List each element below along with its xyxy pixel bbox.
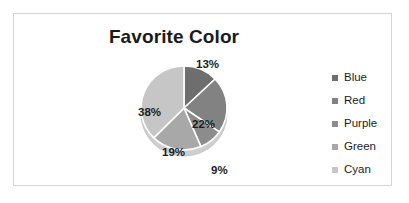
- pie-label-red: 22%: [192, 118, 215, 130]
- chart-title: Favorite Color: [14, 26, 334, 48]
- legend-swatch-icon: [332, 98, 338, 104]
- pie-chart-graphic: [114, 56, 244, 181]
- pie-label-cyan: 38%: [138, 106, 161, 118]
- legend-swatch-icon: [332, 144, 338, 150]
- legend-swatch-icon: [332, 167, 338, 173]
- legend-item-green[interactable]: Green: [332, 135, 407, 158]
- pie-label-blue: 13%: [196, 58, 219, 70]
- legend-item-red[interactable]: Red: [332, 89, 407, 112]
- chart-container: Favorite Color 13%22%9%19%38% BlueRedPur…: [13, 13, 392, 186]
- legend-item-cyan[interactable]: Cyan: [332, 158, 407, 181]
- legend-item-blue[interactable]: Blue: [332, 66, 407, 89]
- legend-item-label: Red: [344, 95, 365, 107]
- legend-swatch-icon: [332, 75, 338, 81]
- legend-swatch-icon: [332, 121, 338, 127]
- legend-item-label: Purple: [344, 118, 377, 130]
- chart-legend: BlueRedPurpleGreenCyan: [332, 66, 407, 181]
- pie-label-green: 19%: [162, 146, 185, 158]
- legend-item-purple[interactable]: Purple: [332, 112, 407, 135]
- legend-item-label: Green: [344, 141, 376, 153]
- pie-label-purple: 9%: [211, 164, 228, 176]
- pie-chart-plot-area: 13%22%9%19%38%: [114, 56, 244, 181]
- legend-item-label: Blue: [344, 72, 367, 84]
- legend-item-label: Cyan: [344, 164, 371, 176]
